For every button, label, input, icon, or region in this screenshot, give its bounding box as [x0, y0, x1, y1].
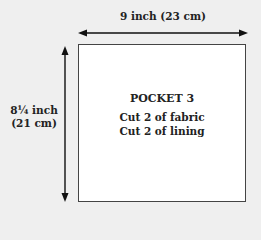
vertical-arrow-icon	[62, 46, 69, 202]
piece-title: POCKET 3	[78, 92, 246, 106]
pattern-piece-text: POCKET 3 Cut 2 of fabric Cut 2 of lining	[78, 92, 246, 138]
height-inch: 8¼ inch	[6, 104, 62, 117]
height-cm: (21 cm)	[6, 117, 62, 130]
instruction-lining: Cut 2 of lining	[78, 124, 246, 138]
horizontal-arrow-icon	[78, 30, 248, 37]
instruction-fabric: Cut 2 of fabric	[78, 110, 246, 124]
height-dimension-label: 8¼ inch (21 cm)	[6, 104, 62, 130]
